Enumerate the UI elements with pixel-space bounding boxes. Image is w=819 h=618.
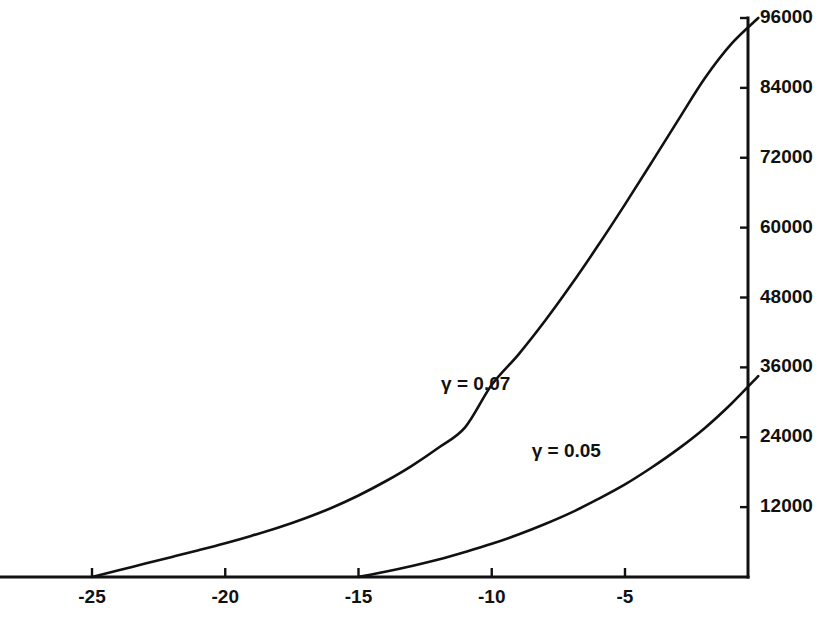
x-tick-label: -15 bbox=[345, 586, 373, 607]
y-axis-ticks: 1200024000360004800060000720008400096000 bbox=[740, 6, 813, 516]
x-tick-label: -20 bbox=[212, 586, 239, 607]
series-annotations-group: γ = 0.07γ = 0.05 bbox=[441, 373, 601, 461]
data-series-group bbox=[92, 18, 758, 577]
chart-figure: 1200024000360004800060000720008400096000… bbox=[0, 0, 819, 618]
y-tick-label: 36000 bbox=[760, 355, 813, 376]
x-tick-label: -5 bbox=[617, 586, 634, 607]
x-axis-ticks: -25-20-15-10-5 bbox=[78, 568, 634, 607]
chart-plot-area: 1200024000360004800060000720008400096000… bbox=[0, 0, 819, 618]
y-tick-label: 48000 bbox=[760, 286, 813, 307]
series-label-gamma-0.07: γ = 0.07 bbox=[441, 373, 510, 394]
series-label-gamma-0.05: γ = 0.05 bbox=[532, 440, 602, 461]
y-tick-label: 72000 bbox=[760, 146, 813, 167]
y-tick-label: 60000 bbox=[760, 216, 813, 237]
y-tick-label: 24000 bbox=[760, 425, 813, 446]
x-tick-label: -25 bbox=[78, 586, 106, 607]
curve-gamma-0.05 bbox=[359, 376, 759, 577]
curve-gamma-0.07 bbox=[92, 18, 758, 577]
y-tick-label: 96000 bbox=[760, 6, 813, 27]
y-tick-label: 12000 bbox=[760, 495, 813, 516]
y-tick-label: 84000 bbox=[760, 76, 813, 97]
x-tick-label: -10 bbox=[478, 586, 505, 607]
